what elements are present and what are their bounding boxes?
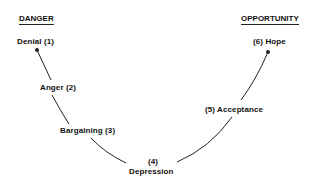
stage-label-acceptance: (5) Acceptance: [205, 105, 263, 114]
end-dot: [266, 50, 270, 54]
curve-segment-depression-acceptance: [177, 117, 232, 162]
danger-header: DANGER: [19, 14, 54, 25]
stage-label-denial: Denial (1): [17, 37, 54, 46]
opportunity-header: OPPORTUNITY: [241, 14, 299, 25]
stage-label-anger: Anger (2): [40, 83, 76, 92]
stage-label-depression-number: (4): [146, 157, 160, 166]
curve-segment-bargaining-depression: [91, 138, 126, 163]
curve-segment-denial-anger: [37, 50, 51, 80]
stage-label-hope: (6) Hope: [253, 37, 286, 46]
curve-segment-acceptance-hope: [241, 52, 268, 100]
stage-label-depression: Depression: [129, 167, 174, 176]
stage-label-bargaining: Bargaining (3): [60, 126, 115, 135]
curve-segment-anger-bargaining: [52, 95, 69, 124]
